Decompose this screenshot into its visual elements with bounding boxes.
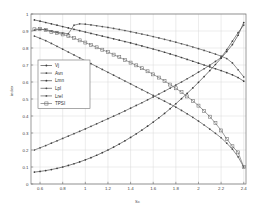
series-marker xyxy=(232,74,234,76)
y-tick-label: 0.5 xyxy=(22,97,29,102)
x-axis-label: Sc xyxy=(135,199,140,204)
series-marker xyxy=(209,70,211,72)
series-marker xyxy=(73,28,75,30)
series-marker xyxy=(34,35,36,37)
series-marker xyxy=(232,44,234,46)
y-tick-label: 0 xyxy=(26,182,29,187)
series-marker xyxy=(45,170,47,172)
series-marker xyxy=(209,51,211,53)
series-marker xyxy=(130,42,132,44)
series-marker xyxy=(135,44,137,46)
series-marker xyxy=(107,118,109,120)
series-marker xyxy=(226,72,228,74)
series-marker xyxy=(203,68,205,70)
series-marker xyxy=(158,37,160,39)
x-tick-label: 1 xyxy=(84,186,87,191)
series-marker xyxy=(118,77,120,79)
series-marker xyxy=(215,64,217,66)
series-marker xyxy=(164,38,166,40)
series-marker xyxy=(164,51,166,53)
x-tick-label: 0.8 xyxy=(60,186,67,191)
series-marker xyxy=(209,64,211,66)
series-marker xyxy=(118,29,120,31)
series-marker xyxy=(101,120,103,122)
series-marker xyxy=(181,98,183,100)
series-marker xyxy=(113,115,115,117)
series-marker xyxy=(175,41,177,43)
series-marker xyxy=(226,58,228,60)
x-tick-label: 2.4 xyxy=(241,186,248,191)
legend-marker xyxy=(46,72,48,74)
series-marker xyxy=(215,61,217,63)
legend-label: Avn xyxy=(55,71,63,76)
series-marker xyxy=(107,27,109,29)
series-marker xyxy=(101,26,103,28)
series-marker xyxy=(226,142,228,144)
series-marker xyxy=(232,62,234,64)
series-marker xyxy=(243,80,245,82)
series-marker xyxy=(39,171,41,173)
series-marker xyxy=(45,22,47,24)
series-marker xyxy=(181,43,183,45)
series-marker xyxy=(73,24,75,26)
series-marker xyxy=(237,156,239,158)
series-marker xyxy=(96,154,98,156)
series-marker xyxy=(45,145,47,147)
legend-marker xyxy=(46,95,48,97)
chart-canvas: 0.60.811.21.41.61.822.22.400.10.20.30.40… xyxy=(0,0,257,216)
series-marker xyxy=(107,149,109,151)
series-marker xyxy=(113,28,115,30)
series-marker xyxy=(209,128,211,130)
series-marker xyxy=(34,19,36,21)
series-marker xyxy=(135,86,137,88)
series-marker xyxy=(209,66,211,68)
series-marker xyxy=(124,140,126,142)
series-marker xyxy=(67,51,69,53)
series-marker xyxy=(175,106,177,108)
series-marker xyxy=(158,50,160,52)
series-marker xyxy=(169,103,171,105)
series-marker xyxy=(232,40,234,42)
legend[interactable]: VjAvnLmnLplLrelTPSI xyxy=(38,60,90,109)
series-marker xyxy=(39,147,41,149)
y-tick-label: 0.1 xyxy=(22,165,29,170)
series-marker xyxy=(79,130,81,132)
legend-label: Lrel xyxy=(55,94,63,99)
series-marker xyxy=(62,48,64,50)
series-marker xyxy=(237,69,239,71)
series-marker xyxy=(198,62,200,64)
series-marker xyxy=(34,149,36,151)
series-marker xyxy=(84,31,86,33)
series-marker xyxy=(34,171,36,173)
series-marker xyxy=(56,24,58,26)
series-marker xyxy=(96,25,98,27)
series-marker xyxy=(62,166,64,168)
series-marker xyxy=(73,133,75,135)
series-marker xyxy=(243,24,245,26)
series-marker xyxy=(130,83,132,85)
series-marker xyxy=(101,35,103,37)
series-marker xyxy=(62,26,64,28)
y-tick-label: 0.7 xyxy=(22,63,29,68)
series-marker xyxy=(186,113,188,115)
series-marker xyxy=(198,48,200,50)
series-marker xyxy=(203,124,205,126)
series-marker xyxy=(135,133,137,135)
series-marker xyxy=(84,23,86,25)
series-marker xyxy=(39,20,41,22)
figure-container: 0.60.811.21.41.61.822.22.400.10.20.30.40… xyxy=(0,0,257,216)
x-tick-label: 1.2 xyxy=(105,186,112,191)
series-marker xyxy=(147,47,149,49)
series-marker xyxy=(243,22,245,24)
series-marker xyxy=(130,107,132,109)
series-marker xyxy=(39,37,41,39)
series-marker xyxy=(215,53,217,55)
series-marker xyxy=(232,148,234,150)
series-marker xyxy=(169,108,171,110)
x-tick-label: 1.8 xyxy=(173,186,180,191)
series-marker xyxy=(79,30,81,32)
x-tick-label: 1.4 xyxy=(128,186,135,191)
series-marker xyxy=(113,38,115,40)
series-marker xyxy=(186,93,188,95)
series-marker xyxy=(79,57,81,59)
